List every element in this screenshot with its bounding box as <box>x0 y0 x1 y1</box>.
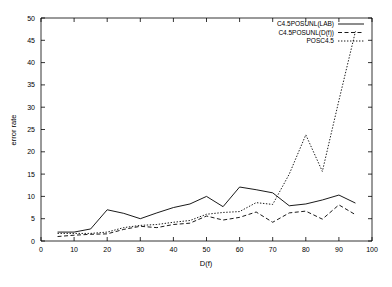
x-tick-label: 0 <box>39 246 43 253</box>
x-tick-label: 60 <box>236 246 244 253</box>
x-tick-label: 30 <box>136 246 144 253</box>
x-tick-label: 90 <box>335 246 343 253</box>
chart-container: 05101520253035404550 0102030405060708090… <box>0 0 392 287</box>
y-tick-label: 25 <box>27 126 35 133</box>
y-tick-label: 5 <box>31 215 35 222</box>
x-axis-title: D(f) <box>200 259 213 268</box>
x-tick-label: 20 <box>103 246 111 253</box>
line-chart: 05101520253035404550 0102030405060708090… <box>0 0 392 287</box>
y-tick-label: 20 <box>27 148 35 155</box>
y-tick-label: 30 <box>27 104 35 111</box>
y-tick-label: 45 <box>27 37 35 44</box>
x-tick-label: 40 <box>170 246 178 253</box>
y-tick-label: 50 <box>27 15 35 22</box>
legend-label-2: POSC4.5 <box>307 37 335 44</box>
x-tick-label: 10 <box>70 246 78 253</box>
x-tick-label: 50 <box>203 246 211 253</box>
x-tick-label: 100 <box>366 246 378 253</box>
legend-label-1: C4.5POSUNL(D(f)) <box>278 29 334 37</box>
y-axis-title: error rate <box>9 115 18 146</box>
y-tick-label: 15 <box>27 171 35 178</box>
y-tick-label: 40 <box>27 59 35 66</box>
x-tick-label: 70 <box>269 246 277 253</box>
x-tick-label: 80 <box>302 246 310 253</box>
y-tick-label: 35 <box>27 81 35 88</box>
legend-label-0: C4.5POSUNL(LAB) <box>277 20 334 28</box>
y-tick-label: 0 <box>31 238 35 245</box>
y-tick-label: 10 <box>27 193 35 200</box>
